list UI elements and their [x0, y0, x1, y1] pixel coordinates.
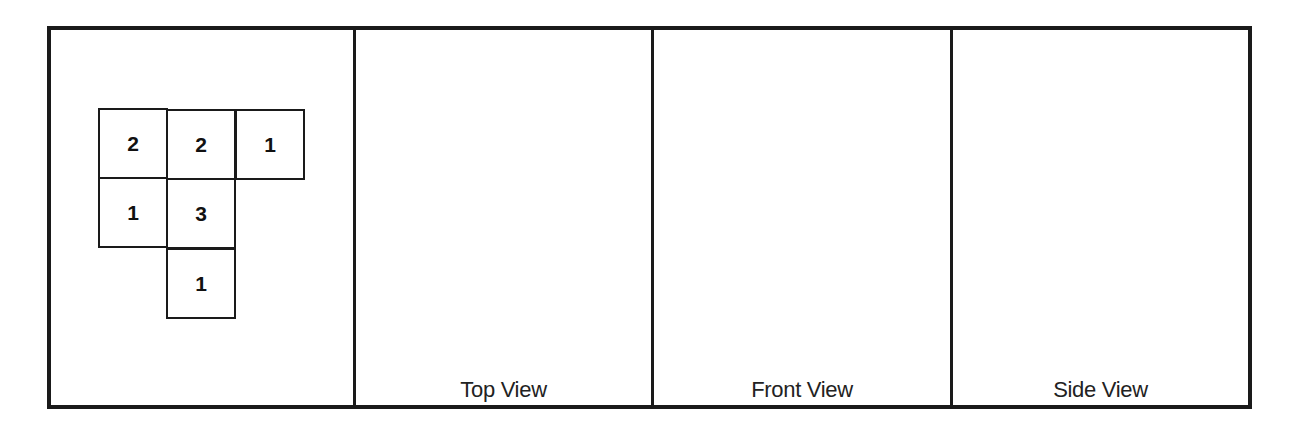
front-view-panel: Front View: [651, 30, 950, 405]
mat-cell-r2c1: 1: [166, 248, 236, 319]
side-view-label: Side View: [953, 377, 1248, 403]
side-view-panel: Side View: [950, 30, 1248, 405]
mat-cell-r1c0: 1: [98, 177, 168, 248]
mat-cell-r0c0: 2: [98, 108, 168, 179]
top-view-label: Top View: [356, 377, 651, 403]
top-view-panel: Top View: [353, 30, 651, 405]
mat-cell-r0c2: 1: [235, 109, 305, 180]
worksheet-frame: 2 2 1 1 3 1 Top View Front View Side Vie…: [47, 26, 1252, 409]
mat-plan-panel: 2 2 1 1 3 1: [51, 30, 353, 405]
front-view-label: Front View: [654, 377, 950, 403]
mat-cell-r0c1: 2: [166, 109, 236, 180]
mat-cell-r1c1: 3: [166, 178, 236, 249]
